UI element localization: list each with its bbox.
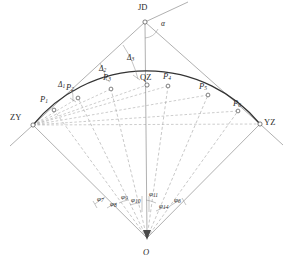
label-phi-7-sub: 7 xyxy=(101,197,104,203)
label-P3-sub: 3 xyxy=(108,76,111,82)
label-P6: P6 xyxy=(233,99,241,109)
radius-to-P4 xyxy=(147,86,168,238)
radius-to-P2 xyxy=(78,98,147,238)
tangent-left-extension xyxy=(10,125,33,146)
radius-to-P1 xyxy=(54,110,147,238)
curve-layout-diagram: JD α ZY YZ QZ O P1 P2 P3 P4 P5 P6 Δ1 Δ2 … xyxy=(0,0,288,263)
label-P1-sub: 1 xyxy=(45,98,48,104)
radius-to-P6 xyxy=(147,111,238,238)
arc-phi-11 xyxy=(146,200,156,203)
label-YZ: YZ xyxy=(264,118,275,127)
label-alpha: α xyxy=(161,20,165,28)
label-P5-sub: 5 xyxy=(204,85,207,91)
center-axis xyxy=(145,24,147,236)
marker-P6 xyxy=(236,109,240,113)
radius-to-P3 xyxy=(111,89,147,238)
tangent-left xyxy=(33,22,145,125)
alpha-angle-arc xyxy=(145,29,158,38)
label-phi-6-sub: 6 xyxy=(178,198,181,204)
label-P6-sub: 6 xyxy=(238,102,241,108)
axis-line xyxy=(145,24,147,236)
label-phi-10-sub: 10 xyxy=(135,198,141,204)
marker-JD xyxy=(143,20,147,24)
marker-P1 xyxy=(52,108,56,112)
label-phi-10: φ10 xyxy=(131,197,140,205)
chord-ZY-P6 xyxy=(33,111,238,125)
arc-alpha xyxy=(145,29,158,38)
label-phi-9-sub: 9 xyxy=(125,195,128,201)
tangent-right-extension xyxy=(260,124,283,145)
marker-P4 xyxy=(166,84,170,88)
label-delta-1: Δ1 xyxy=(58,81,65,90)
marker-P5 xyxy=(206,93,210,97)
chord-ZY-YZ xyxy=(33,124,260,125)
label-P4: P4 xyxy=(163,72,171,82)
label-P2: P2 xyxy=(66,83,74,93)
marker-YZ xyxy=(258,122,262,126)
label-phi-14: φ14 xyxy=(159,203,168,211)
diagram-canvas xyxy=(0,0,288,263)
label-phi-8: φ8 xyxy=(110,201,117,209)
alpha-ray xyxy=(145,2,188,22)
marker-P2 xyxy=(76,96,80,100)
label-JD: JD xyxy=(138,3,147,12)
label-P3: P3 xyxy=(103,73,111,83)
label-P1: P1 xyxy=(40,95,48,105)
label-phi-7: φ7 xyxy=(97,196,104,204)
label-delta-2-sub: 2 xyxy=(103,67,106,73)
label-P2-sub: 2 xyxy=(71,86,74,92)
tick-delta-3 xyxy=(133,75,140,80)
label-P4-sub: 4 xyxy=(168,75,171,81)
radius-to-P5 xyxy=(147,95,208,238)
label-delta-3-sub: 3 xyxy=(131,56,134,62)
label-P5: P5 xyxy=(199,82,207,92)
label-QZ: QZ xyxy=(140,73,151,82)
marker-QZ xyxy=(145,83,149,87)
label-phi-6: φ6 xyxy=(174,197,181,205)
label-O: O xyxy=(143,248,149,257)
marker-P3 xyxy=(109,87,113,91)
label-phi-11: φ11 xyxy=(149,191,158,199)
label-phi-11-sub: 11 xyxy=(153,192,158,198)
label-delta-1-sub: 1 xyxy=(62,83,65,89)
marker-ZY xyxy=(31,123,35,127)
label-phi-8-sub: 8 xyxy=(114,202,117,208)
label-phi-9: φ9 xyxy=(121,194,128,202)
label-ZY: ZY xyxy=(10,113,21,122)
chord-ZY-QZ xyxy=(33,85,147,125)
label-delta-2: Δ2 xyxy=(99,65,106,74)
radius-to-ZY xyxy=(33,125,147,238)
radius-to-YZ xyxy=(147,124,260,238)
label-delta-3: Δ3 xyxy=(127,54,134,63)
label-phi-14-sub: 14 xyxy=(163,204,169,210)
